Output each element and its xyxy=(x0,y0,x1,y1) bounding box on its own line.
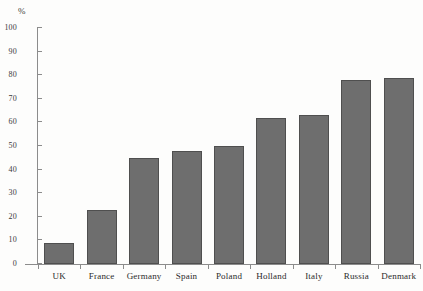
x-axis-tick-mark xyxy=(165,265,166,269)
y-axis-tick-label: 10 xyxy=(9,234,17,245)
x-axis-tick-mark xyxy=(208,265,209,269)
x-axis-category-label: UK xyxy=(38,270,80,282)
y-axis-tick-label: 30 xyxy=(9,187,17,198)
x-axis-line xyxy=(25,264,421,265)
bar-slot xyxy=(123,28,165,264)
x-axis-category-label: Poland xyxy=(208,270,250,282)
x-axis-category-label: Germany xyxy=(123,270,165,282)
bar[interactable] xyxy=(256,118,286,264)
x-axis-tick-mark xyxy=(80,265,81,269)
y-axis-tick-label: 80 xyxy=(9,69,17,80)
bar-slot xyxy=(80,28,122,264)
x-axis-tick-mark xyxy=(293,265,294,269)
x-axis-category-label: Denmark xyxy=(378,270,420,282)
y-axis-tick-label: 100 xyxy=(4,22,17,33)
bar[interactable] xyxy=(214,146,244,264)
bar[interactable] xyxy=(87,210,117,264)
bar-slot xyxy=(38,28,80,264)
y-axis-tick-label: 0 xyxy=(13,258,17,269)
x-axis-category-label: France xyxy=(80,270,122,282)
x-axis-category-label: Holland xyxy=(250,270,292,282)
bar-slot xyxy=(165,28,207,264)
x-axis-category-label: Italy xyxy=(293,270,335,282)
x-axis-category-label: Russia xyxy=(335,270,377,282)
x-axis-tick-mark xyxy=(335,265,336,269)
bar[interactable] xyxy=(384,78,414,264)
plot-area xyxy=(38,28,420,264)
y-axis-tick-label: 20 xyxy=(9,211,17,222)
bar[interactable] xyxy=(44,243,74,264)
x-axis-tick-mark xyxy=(123,265,124,269)
bar-slot xyxy=(378,28,420,264)
bar-chart: % 0102030405060708090100 UKFranceGermany… xyxy=(0,0,423,291)
x-axis-tick-mark xyxy=(378,265,379,269)
y-axis-tick-label: 60 xyxy=(9,116,17,127)
y-axis-unit-label: % xyxy=(18,6,26,16)
bar-slot xyxy=(335,28,377,264)
x-axis-tick-mark xyxy=(38,265,39,269)
bar[interactable] xyxy=(129,158,159,264)
y-axis-tick-label: 90 xyxy=(9,46,17,57)
y-axis-tick-label: 50 xyxy=(9,140,17,151)
x-axis-tick-mark xyxy=(420,265,421,269)
y-axis-tick-label: 70 xyxy=(9,93,17,104)
x-axis-tick-mark xyxy=(250,265,251,269)
bar-slot xyxy=(250,28,292,264)
bar[interactable] xyxy=(299,115,329,264)
bar-slot xyxy=(293,28,335,264)
y-axis-tick-label: 40 xyxy=(9,164,17,175)
bar[interactable] xyxy=(341,80,371,264)
bar[interactable] xyxy=(172,151,202,264)
bar-slot xyxy=(208,28,250,264)
x-axis-category-label: Spain xyxy=(165,270,207,282)
